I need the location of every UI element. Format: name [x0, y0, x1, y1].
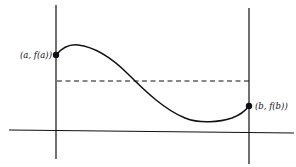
function-curve: [56, 45, 249, 122]
x-axis: [9, 130, 294, 133]
point-b-marker: [246, 103, 252, 109]
label-a-fa: (a, f(a)): [20, 50, 52, 60]
label-b-fb: (b, f(b)): [255, 101, 288, 111]
point-a-marker: [53, 52, 59, 58]
mvt-diagram: (a, f(a)) (b, f(b)): [0, 0, 296, 167]
